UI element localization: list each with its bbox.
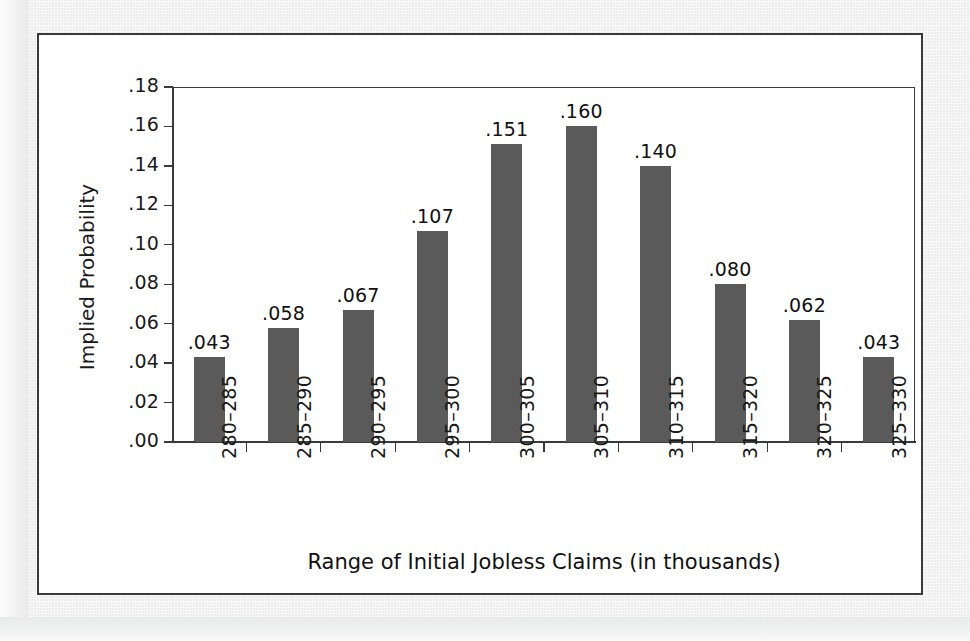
x-axis-tick bbox=[395, 442, 396, 452]
x-axis-tick bbox=[692, 442, 693, 452]
y-axis-tick-label: .08 bbox=[107, 271, 159, 293]
y-axis-tick bbox=[164, 244, 173, 245]
x-axis-category-label: 290–295 bbox=[367, 375, 389, 459]
y-axis-tick bbox=[164, 441, 173, 442]
y-axis-tick bbox=[164, 126, 173, 127]
y-axis-tick bbox=[164, 323, 173, 324]
page-bottom-edge bbox=[0, 617, 970, 641]
x-axis-category-label: 295–300 bbox=[441, 375, 463, 459]
x-axis-title: Range of Initial Jobless Claims (in thou… bbox=[172, 550, 916, 574]
x-axis-category-label: 280–285 bbox=[218, 375, 240, 459]
bar-value-label: .140 bbox=[616, 140, 696, 162]
x-axis-tick bbox=[543, 442, 544, 452]
bar-value-label: .043 bbox=[839, 331, 919, 353]
y-axis-tick-label: .06 bbox=[107, 311, 159, 333]
y-axis-tick-label: .10 bbox=[107, 232, 159, 254]
x-axis-tick bbox=[841, 442, 842, 452]
y-axis-tick-label: .00 bbox=[107, 429, 159, 451]
x-axis-tick bbox=[618, 442, 619, 452]
y-axis-tick bbox=[164, 362, 173, 363]
x-axis-category-label: 315–320 bbox=[739, 375, 761, 459]
y-axis-title: Implied Probability bbox=[75, 162, 99, 392]
bar-value-label: .080 bbox=[690, 258, 770, 280]
bar-value-label: .043 bbox=[169, 331, 249, 353]
bar-value-label: .160 bbox=[541, 100, 621, 122]
y-axis-tick-label: .12 bbox=[107, 192, 159, 214]
bar-value-label: .067 bbox=[318, 284, 398, 306]
x-axis-tick bbox=[246, 442, 247, 452]
y-axis-tick-label: .04 bbox=[107, 350, 159, 372]
bar-value-label: .062 bbox=[764, 294, 844, 316]
y-axis-tick bbox=[164, 205, 173, 206]
x-axis-category-label: 310–315 bbox=[665, 375, 687, 459]
y-axis-tick bbox=[164, 284, 173, 285]
figure-frame: .00.02.04.06.08.10.12.14.16.18 .043.058.… bbox=[37, 33, 923, 595]
x-axis-category-label: 320–325 bbox=[813, 375, 835, 459]
x-axis-tick bbox=[320, 442, 321, 452]
y-axis-tick-label: .14 bbox=[107, 153, 159, 175]
y-axis-tick bbox=[164, 402, 173, 403]
y-axis-tick bbox=[164, 86, 173, 87]
x-axis-category-label: 325–330 bbox=[888, 375, 910, 459]
x-axis-category-label: 300–305 bbox=[516, 375, 538, 459]
x-axis-tick bbox=[767, 442, 768, 452]
bar-value-label: .107 bbox=[392, 205, 472, 227]
y-axis-tick-labels: .00.02.04.06.08.10.12.14.16.18 bbox=[99, 35, 159, 593]
bar-chart: .00.02.04.06.08.10.12.14.16.18 .043.058.… bbox=[39, 35, 921, 593]
bar-value-label: .058 bbox=[244, 302, 324, 324]
y-axis-tick bbox=[164, 165, 173, 166]
y-axis-tick-label: .16 bbox=[107, 113, 159, 135]
x-axis-category-label: 285–290 bbox=[293, 375, 315, 459]
y-axis-tick-label: .02 bbox=[107, 390, 159, 412]
page-left-edge bbox=[0, 0, 28, 641]
bar-value-label: .151 bbox=[467, 118, 547, 140]
y-axis-tick-label: .18 bbox=[107, 74, 159, 96]
scanned-page: .00.02.04.06.08.10.12.14.16.18 .043.058.… bbox=[0, 0, 970, 641]
y-axis-line bbox=[172, 87, 174, 443]
x-axis-tick bbox=[469, 442, 470, 452]
x-axis-category-label: 305–310 bbox=[590, 375, 612, 459]
